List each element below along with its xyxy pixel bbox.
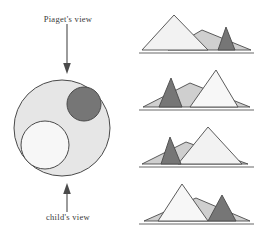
arrow-up-child [0, 182, 136, 216]
dark-mountain-circle [67, 87, 101, 121]
arrow-down-piaget [0, 22, 136, 78]
viewpoint-panel-2 [138, 65, 256, 115]
child-view-label: child's view [0, 212, 136, 222]
viewpoint-panel-4 [138, 179, 256, 229]
left-column: Piaget's view child's view [0, 0, 136, 233]
viewpoint-panels [136, 0, 260, 233]
light-mountain-circle [21, 121, 69, 169]
three-mountains-plan-view [0, 76, 136, 182]
three-mountains-figure: Piaget's view child's view [0, 0, 260, 233]
viewpoint-panel-1 [138, 8, 256, 58]
viewpoint-panel-3 [138, 122, 256, 172]
